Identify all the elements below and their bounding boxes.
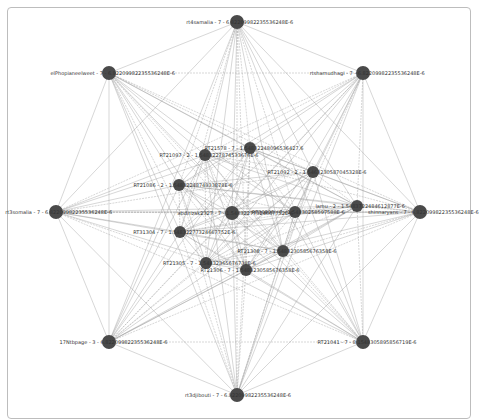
node-label: RT21578 - 7 - 1.54832248096536427.6 (205, 145, 304, 151)
edge (109, 73, 179, 185)
edge (237, 172, 313, 395)
edge (237, 22, 420, 212)
edge (109, 263, 206, 342)
edge (237, 22, 283, 251)
edge (250, 73, 363, 148)
edge (109, 73, 205, 155)
edge (237, 342, 363, 395)
node-label: RT21086 - 2 - 1.5483224874933878E-6 (134, 182, 233, 188)
node-label: RT21306 - 7 - 1.5483230585676358E-6 (201, 267, 300, 273)
edge (180, 172, 313, 232)
edge (109, 172, 313, 342)
edge (56, 172, 313, 212)
edge (205, 22, 237, 155)
edge (179, 185, 180, 232)
edge (109, 73, 283, 251)
node-label: rt3somalia - 7 - 6.82209982235536248E-6 (5, 209, 112, 215)
node-label: RT31304 - 7 - 1.54832277324667752E-6 (133, 229, 235, 235)
edge (205, 155, 357, 206)
edge (109, 73, 295, 212)
edge (180, 232, 206, 263)
node-label: elPhopianeelweet - 7 - 6.822099822355362… (51, 70, 175, 76)
edge (109, 22, 237, 73)
edge (246, 270, 363, 342)
edge (56, 212, 109, 342)
edge (237, 22, 363, 73)
node-label: RT21092 - 2 - 1.5463230587045328E-6 (268, 169, 367, 175)
node-label: 17Ntbpage - 3 - 6.82209982235536248E-6 (60, 339, 168, 345)
edge (56, 73, 109, 212)
node-label: RT21041 - 7 - 8.1548305895856719E-6 (318, 339, 417, 345)
node-label: RT21308 - 7 - 1.5483230585676358E-6 (238, 248, 337, 254)
edge (109, 270, 246, 342)
edge (295, 172, 313, 212)
edge (109, 232, 180, 342)
edge (109, 342, 237, 395)
edge (237, 270, 246, 395)
edge (179, 22, 237, 185)
node-label: rtshamudhagi - 7 - 6.82209982235536248E-… (310, 70, 425, 76)
edge (363, 73, 420, 212)
edge (313, 73, 363, 172)
edge (237, 22, 357, 206)
node-label: RT30806 - 7 - 1.54830258597588E-6 (252, 209, 345, 215)
edge (295, 212, 363, 342)
node-label: shinnaryans - 7 - 6.82209982235536248E-6 (368, 209, 479, 215)
edge (109, 73, 420, 212)
node-label: rt4samalia - 7 - 6.82209982235536248E-6 (186, 19, 293, 25)
node-label: rt3djibouti - 7 - 6.82209982235536248E-6 (185, 392, 291, 398)
edge (232, 213, 363, 342)
edge (283, 251, 363, 342)
edge (56, 185, 179, 212)
node-label: RT21097 - 2 - 1.5483227874533676E-6 (160, 152, 259, 158)
edge (232, 213, 237, 395)
node-label: RT21305 - 7 - 1.54832365676738E-6 (163, 260, 256, 266)
edge (232, 213, 283, 251)
edge (363, 212, 420, 342)
